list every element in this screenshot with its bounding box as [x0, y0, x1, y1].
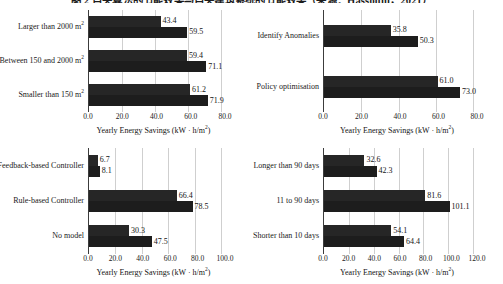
- bar-value-label: 6.7: [98, 156, 110, 164]
- y-axis-tick-label: Rule-based Controller: [13, 197, 84, 205]
- bar: [89, 225, 129, 236]
- bar-chart: Larger than 2000 m2Between 150 and 2000 …: [0, 10, 251, 138]
- bar: [89, 201, 193, 212]
- chart-panel-top-left: Larger than 2000 m2Between 150 and 2000 …: [0, 10, 251, 138]
- y-axis-labels: Identify AnomaliesPolicy optimisation: [251, 10, 323, 112]
- y-axis-tick-label: Shorter than 10 days: [253, 232, 319, 240]
- x-axis-tick-label: 0.0: [83, 255, 92, 263]
- bar-value-label: 59.5: [187, 28, 203, 36]
- x-axis-tick-label: 60.0: [432, 113, 445, 121]
- x-axis-tick-label: 20.0: [116, 113, 129, 121]
- bar: [324, 166, 377, 177]
- y-axis-tick-label: Feedback-based Controller: [0, 162, 84, 170]
- x-axis-tick-label: 40.0: [393, 113, 406, 121]
- y-axis-tick-label: 11 to 90 days: [276, 197, 319, 205]
- x-axis-tick-label: 40.0: [150, 113, 163, 121]
- bar-value-label: 32.6: [364, 156, 380, 164]
- x-axis-tick-label: 80.0: [218, 113, 231, 121]
- bar-value-label: 30.3: [129, 227, 145, 235]
- y-axis-labels: Larger than 2000 m2Between 150 and 2000 …: [0, 10, 88, 112]
- bar-value-label: 59.4: [187, 52, 203, 60]
- x-axis-tick-label: 0.0: [318, 255, 327, 263]
- plot-wrapper: Larger than 2000 m2Between 150 and 2000 …: [0, 10, 247, 112]
- y-axis-labels: Longer than 90 days11 to 90 daysShorter …: [251, 148, 323, 254]
- plot-wrapper: Feedback-based ControllerRule-based Cont…: [0, 148, 247, 254]
- plot-wrapper: Identify AnomaliesPolicy optimisation35.…: [251, 10, 499, 112]
- plot-wrapper: Longer than 90 days11 to 90 daysShorter …: [251, 148, 499, 254]
- x-axis-tick-label: 80.0: [191, 255, 204, 263]
- x-axis-tick-label: 60.0: [164, 255, 177, 263]
- bar-value-label: 43.4: [161, 17, 177, 25]
- x-axis-tick-label: 120.0: [469, 255, 486, 263]
- bar-value-label: 61.0: [438, 77, 454, 85]
- bar-value-label: 54.1: [391, 227, 407, 235]
- bar-value-label: 66.4: [177, 192, 193, 200]
- x-axis-tick-label: 100.0: [443, 255, 460, 263]
- plot-area: 35.850.361.073.0: [323, 10, 473, 112]
- y-axis-tick-label: Policy optimisation: [257, 83, 319, 91]
- bar: [89, 155, 98, 166]
- bar: [89, 50, 187, 61]
- bar-value-label: 42.3: [377, 167, 393, 175]
- bar: [89, 84, 190, 95]
- bar: [324, 201, 450, 212]
- bar: [324, 155, 364, 166]
- bar-value-label: 8.1: [100, 167, 112, 175]
- y-axis-labels: Feedback-based ControllerRule-based Cont…: [0, 148, 88, 254]
- y-axis-tick-label: Identify Anomalies: [257, 32, 319, 40]
- x-axis-tick-label: 20.0: [355, 113, 368, 121]
- chart-panel-top-right: Identify AnomaliesPolicy optimisation35.…: [251, 10, 503, 138]
- x-axis-title: Yearly Energy Savings (kW · h/m2): [251, 268, 503, 277]
- x-axis-title: Yearly Energy Savings (kW · h/m2): [0, 126, 251, 135]
- bar: [324, 87, 460, 98]
- bar-value-label: 61.2: [190, 86, 206, 94]
- bar: [324, 25, 391, 36]
- bar-value-label: 64.4: [404, 238, 420, 246]
- y-axis-tick-label: Larger than 2000 m2: [18, 23, 84, 31]
- bar-value-label: 78.5: [193, 203, 209, 211]
- bar-value-label: 101.1: [450, 203, 470, 211]
- bar: [324, 36, 418, 47]
- x-axis-tick-label: 100.0: [217, 255, 234, 263]
- gridline: [473, 10, 474, 112]
- y-axis-tick-label: No model: [52, 232, 84, 240]
- bar-value-label: 50.3: [418, 37, 434, 45]
- bar-chart: Longer than 90 days11 to 90 daysShorter …: [251, 148, 503, 280]
- x-axis-tick-label: 80.0: [419, 255, 432, 263]
- x-axis-tick-label: 40.0: [136, 255, 149, 263]
- plot-area: 43.459.559.471.161.271.9: [88, 10, 221, 112]
- x-axis-tick-label: 20.0: [109, 255, 122, 263]
- bar: [324, 236, 404, 247]
- bar: [324, 190, 425, 201]
- gridline: [221, 148, 222, 254]
- chart-panel-bottom-left: Feedback-based ControllerRule-based Cont…: [0, 148, 251, 280]
- x-axis-tick-label: 20.0: [342, 255, 355, 263]
- bar: [89, 190, 177, 201]
- bar: [89, 166, 100, 177]
- bar-value-label: 73.0: [460, 88, 476, 96]
- bar: [89, 236, 152, 247]
- bar: [89, 27, 187, 38]
- bar-value-label: 47.5: [152, 238, 168, 246]
- bar-value-label: 71.1: [206, 63, 222, 71]
- bar-value-label: 35.8: [391, 26, 407, 34]
- bar-chart: Feedback-based ControllerRule-based Cont…: [0, 148, 251, 280]
- bar: [89, 95, 208, 106]
- plot-area: 6.78.166.478.530.347.5: [88, 148, 221, 254]
- y-axis-tick-label: Longer than 90 days: [253, 162, 319, 170]
- figure-page: 图 2 自关算法的节能效果与自关建筑系统的节能效果（来源：Hassouni，20…: [0, 0, 503, 284]
- bar-chart: Identify AnomaliesPolicy optimisation35.…: [251, 10, 503, 138]
- x-axis-title: Yearly Energy Savings (kW · h/m2): [0, 268, 251, 277]
- bar: [89, 16, 161, 27]
- figure-caption: 图 2 自关算法的节能效果与自关建筑系统的节能效果（来源：Hassouni，20…: [0, 0, 503, 3]
- x-axis-tick-label: 0.0: [318, 113, 327, 121]
- y-axis-tick-label: Smaller than 150 m2: [18, 91, 84, 99]
- x-axis-title: Yearly Energy Savings (kW · h/m2): [251, 126, 503, 135]
- x-axis-tick-label: 40.0: [368, 255, 381, 263]
- y-axis-tick-label: Between 150 and 2000 m2: [0, 57, 84, 65]
- chart-panel-bottom-right: Longer than 90 days11 to 90 daysShorter …: [251, 148, 503, 280]
- bar: [324, 76, 438, 87]
- x-axis-tick-label: 80.0: [470, 113, 483, 121]
- bar-value-label: 81.6: [425, 192, 441, 200]
- bar: [89, 61, 206, 72]
